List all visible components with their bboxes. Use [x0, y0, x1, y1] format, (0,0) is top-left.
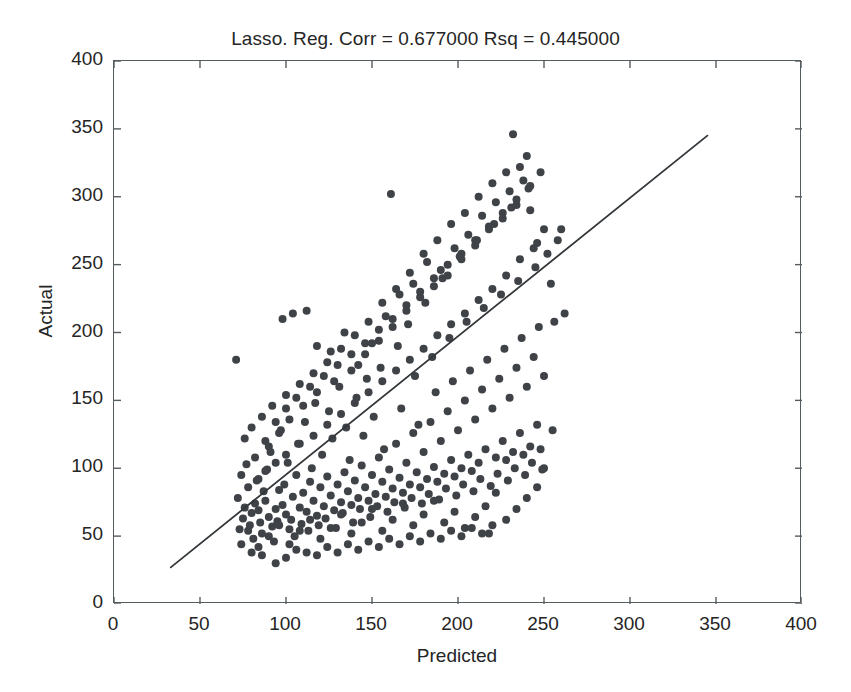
- scatter-point: [533, 483, 541, 491]
- scatter-point: [420, 510, 428, 518]
- scatter-point: [330, 506, 338, 514]
- scatter-point: [468, 524, 476, 532]
- scatter-point: [482, 445, 490, 453]
- scatter-point: [416, 538, 424, 546]
- scatter-point: [256, 519, 264, 527]
- x-tick-label: 50: [169, 613, 229, 635]
- scatter-point: [282, 554, 290, 562]
- scatter-point: [365, 318, 373, 326]
- scatter-point: [272, 459, 280, 467]
- scatter-point: [327, 524, 335, 532]
- scatter-point: [347, 529, 355, 537]
- scatter-point: [236, 525, 244, 533]
- scatter-point: [261, 497, 269, 505]
- scatter-point: [363, 375, 371, 383]
- scatter-point: [454, 426, 462, 434]
- scatter-point: [540, 372, 548, 380]
- scatter-point: [303, 548, 311, 556]
- scatter-point: [340, 468, 348, 476]
- scatter-point: [287, 516, 295, 524]
- scatter-point: [242, 460, 250, 468]
- scatter-point: [526, 182, 534, 190]
- scatter-point: [502, 271, 510, 279]
- scatter-points: [232, 130, 569, 567]
- scatter-point: [254, 506, 262, 514]
- scatter-point: [464, 231, 472, 239]
- x-axis-title: Predicted: [113, 645, 801, 667]
- scatter-point: [337, 410, 345, 418]
- scatter-point: [265, 513, 273, 521]
- scatter-point: [316, 535, 324, 543]
- scatter-point: [344, 540, 352, 548]
- scatter-point: [248, 548, 256, 556]
- scatter-point: [249, 535, 257, 543]
- scatter-point: [488, 521, 496, 529]
- scatter-point: [375, 337, 383, 345]
- scatter-point: [297, 520, 305, 528]
- scatter-point: [487, 482, 495, 490]
- scatter-point: [471, 513, 479, 521]
- scatter-point: [346, 456, 354, 464]
- scatter-point: [272, 505, 280, 513]
- scatter-point: [396, 474, 404, 482]
- scatter-point: [406, 481, 414, 489]
- scatter-point: [318, 451, 326, 459]
- scatter-point: [354, 361, 362, 369]
- plot-canvas: [114, 61, 802, 604]
- scatter-point: [485, 529, 493, 537]
- scatter-point: [526, 443, 534, 451]
- scatter-point: [315, 521, 323, 529]
- scatter-point: [359, 432, 367, 440]
- scatter-point: [351, 476, 359, 484]
- scatter-point: [530, 353, 538, 361]
- scatter-point: [361, 483, 369, 491]
- scatter-point: [258, 413, 266, 421]
- scatter-point: [502, 456, 510, 464]
- scatter-point: [397, 405, 405, 413]
- scatter-point: [475, 296, 483, 304]
- x-tick-label: 400: [771, 613, 831, 635]
- scatter-point: [521, 471, 529, 479]
- scatter-point: [285, 525, 293, 533]
- scatter-point: [334, 361, 342, 369]
- scatter-point: [304, 527, 312, 535]
- scatter-point: [554, 236, 562, 244]
- scatter-point: [430, 274, 438, 282]
- scatter-point: [313, 512, 321, 520]
- scatter-point: [284, 459, 292, 467]
- scatter-point: [471, 236, 479, 244]
- scatter-point: [303, 307, 311, 315]
- scatter-point: [442, 485, 450, 493]
- scatter-point: [523, 152, 531, 160]
- scatter-point: [530, 244, 538, 252]
- scatter-point: [358, 462, 366, 470]
- scatter-point: [313, 551, 321, 559]
- scatter-point: [495, 375, 503, 383]
- scatter-point: [261, 467, 269, 475]
- scatter-point: [337, 510, 345, 518]
- scatter-point: [378, 299, 386, 307]
- scatter-point: [234, 494, 242, 502]
- scatter-point: [406, 356, 414, 364]
- scatter-point: [375, 543, 383, 551]
- scatter-point: [310, 432, 318, 440]
- scatter-point: [303, 508, 311, 516]
- scatter-point: [296, 504, 304, 512]
- scatter-point: [506, 394, 514, 402]
- scatter-point: [480, 304, 488, 312]
- scatter-point: [523, 494, 531, 502]
- y-tick-label: 100: [43, 455, 103, 477]
- scatter-point: [375, 326, 383, 334]
- scatter-point: [444, 407, 452, 415]
- scatter-point: [275, 429, 283, 437]
- scatter-point: [423, 475, 431, 483]
- scatter-point: [519, 451, 527, 459]
- x-tick-label: 200: [427, 613, 487, 635]
- scatter-point: [511, 464, 519, 472]
- y-tick-label: 300: [43, 184, 103, 206]
- scatter-point: [437, 266, 445, 274]
- scatter-point: [499, 437, 507, 445]
- scatter-point: [387, 190, 395, 198]
- scatter-point: [365, 388, 373, 396]
- scatter-point: [334, 548, 342, 556]
